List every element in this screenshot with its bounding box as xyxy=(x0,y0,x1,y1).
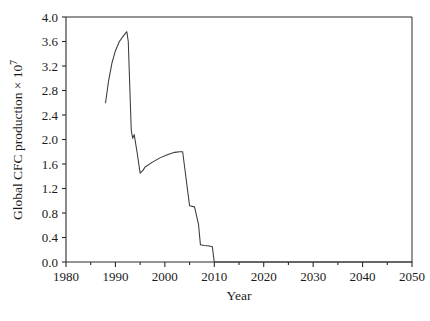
y-tick-label: 2.8 xyxy=(42,83,58,98)
y-tick-label: 2.0 xyxy=(42,132,58,147)
y-axis-ticks xyxy=(62,17,66,262)
y-tick-label: 0.0 xyxy=(42,255,58,270)
x-tick-label: 2020 xyxy=(251,269,277,284)
y-axis-title-base: Global CFC production × 10 xyxy=(10,64,25,220)
x-tick-label: 1980 xyxy=(53,269,79,284)
x-tick-label: 2050 xyxy=(399,269,425,284)
x-tick-label: 2030 xyxy=(300,269,326,284)
x-tick-label: 2040 xyxy=(350,269,376,284)
y-axis-title: Global CFC production × 107 xyxy=(9,60,25,220)
y-tick-label: 3.6 xyxy=(42,34,59,49)
data-series-line xyxy=(106,32,412,262)
y-tick-label: 3.2 xyxy=(42,59,58,74)
axes-frame xyxy=(66,17,412,262)
y-axis-tick-labels: 0.00.40.81.21.62.02.42.83.23.64.0 xyxy=(42,10,59,270)
x-axis-tick-labels: 19801990200020102020203020402050 xyxy=(53,269,425,284)
y-axis-title-group: Global CFC production × 107 xyxy=(9,60,25,220)
x-axis-title: Year xyxy=(227,288,252,303)
chart-figure: 0.00.40.81.21.62.02.42.83.23.64.0 198019… xyxy=(0,0,430,321)
x-axis-ticks xyxy=(66,262,412,267)
y-tick-label: 0.8 xyxy=(42,206,58,221)
y-tick-label: 4.0 xyxy=(42,10,58,25)
cfc-production-line-chart: 0.00.40.81.21.62.02.42.83.23.64.0 198019… xyxy=(0,0,430,321)
x-tick-label: 2010 xyxy=(201,269,227,284)
x-tick-label: 2000 xyxy=(152,269,178,284)
y-tick-label: 1.6 xyxy=(42,157,59,172)
y-tick-label: 2.4 xyxy=(42,108,59,123)
y-tick-label: 1.2 xyxy=(42,181,58,196)
x-tick-label: 1990 xyxy=(102,269,128,284)
y-tick-label: 0.4 xyxy=(42,230,59,245)
y-axis-title-exponent: 7 xyxy=(9,60,19,65)
